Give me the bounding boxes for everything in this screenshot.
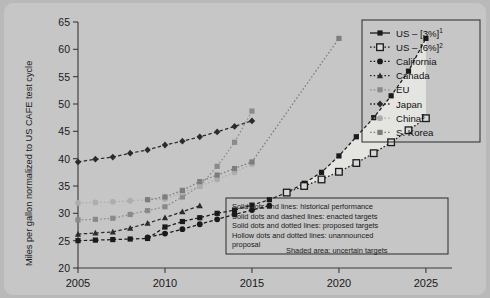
data-point <box>336 168 343 175</box>
chart-container: Miles per gallon normalized to US CAFE t… <box>0 0 490 298</box>
y-axis-label: Miles per gallon normalized to US CAFE t… <box>24 61 34 266</box>
y-tick-label: 25 <box>58 235 70 247</box>
note-line-2: Solid dots and dashed lines: enacted tar… <box>232 212 378 221</box>
legend-marker <box>377 130 382 135</box>
legend-label: EU <box>396 84 409 95</box>
data-point <box>75 217 80 222</box>
data-point <box>145 197 150 202</box>
y-tick-label: 35 <box>58 180 70 192</box>
data-point <box>197 179 202 184</box>
data-point <box>128 212 133 217</box>
data-point <box>249 118 255 125</box>
data-point <box>354 134 359 139</box>
x-tick-label: 2010 <box>153 277 177 289</box>
data-point <box>127 150 133 157</box>
data-point <box>145 234 151 240</box>
data-point <box>370 150 377 157</box>
legend-item-japan[interactable]: Japan <box>370 99 422 110</box>
data-point <box>389 93 394 98</box>
data-point <box>319 170 324 175</box>
data-point <box>110 199 116 205</box>
data-point <box>75 200 81 206</box>
data-point <box>93 238 98 243</box>
data-point <box>318 176 325 183</box>
data-point <box>162 204 167 209</box>
data-point <box>215 211 220 216</box>
data-point <box>179 138 185 145</box>
data-point <box>75 238 80 243</box>
legend-label: California <box>396 56 437 67</box>
y-tick-label: 40 <box>58 153 70 165</box>
data-point <box>145 208 150 213</box>
data-point <box>249 159 254 164</box>
legend-item-canada[interactable]: Canada <box>370 70 430 81</box>
legend-label: China3 <box>396 113 425 124</box>
legend-label-superscript: 3 <box>421 113 425 120</box>
y-tick-label: 45 <box>58 125 70 137</box>
data-point <box>180 188 185 193</box>
data-point <box>110 154 116 161</box>
data-point <box>197 202 203 208</box>
series-japan <box>75 118 255 166</box>
legend-label: Japan <box>396 99 422 110</box>
legend-marker <box>377 30 382 35</box>
legend-label: Canada <box>396 70 430 81</box>
data-point <box>336 153 341 158</box>
data-point <box>93 217 98 222</box>
data-point <box>162 224 167 229</box>
note-line-1: Solid dots and lines: historical perform… <box>232 202 373 211</box>
y-tick-label: 65 <box>58 16 70 28</box>
data-point <box>92 200 98 206</box>
data-point <box>179 208 185 214</box>
data-point <box>162 194 167 199</box>
data-point <box>197 221 203 227</box>
legend-item-us-6[interactable]: US – [6%]2 <box>370 42 443 53</box>
data-point <box>232 166 237 171</box>
y-tick-label: 60 <box>58 43 70 55</box>
legend-item-california[interactable]: California <box>370 56 437 67</box>
data-point <box>249 109 254 114</box>
data-point <box>301 183 308 190</box>
data-point <box>232 140 237 145</box>
data-point <box>180 219 185 224</box>
x-tick-label: 2015 <box>240 277 264 289</box>
y-tick-label: 20 <box>58 262 70 274</box>
x-tick-label: 2005 <box>66 277 90 289</box>
y-tick-label: 30 <box>58 207 70 219</box>
legend-item-us-3[interactable]: US – [3%]1 <box>370 27 443 38</box>
legend-marker <box>377 115 383 121</box>
y-tick-label: 55 <box>58 71 70 83</box>
y-axis-label-text: Miles per gallon normalized to US CAFE t… <box>24 61 34 266</box>
data-point <box>197 215 202 220</box>
data-point <box>197 133 203 140</box>
data-point <box>162 142 168 149</box>
y-axis-ticks: 20253035404550556065 <box>58 16 78 274</box>
data-point <box>283 189 290 196</box>
legend-label: US – [6%]2 <box>396 42 443 53</box>
data-point <box>92 156 98 163</box>
legend-marker <box>377 87 382 92</box>
data-point <box>110 216 115 221</box>
note-line-5: proposal <box>232 240 261 249</box>
note-line-4: Hollow dots and dotted lines: unannounce… <box>232 231 373 240</box>
data-point <box>162 215 168 221</box>
shaded-area-note: Shaded area: uncertain targets <box>286 246 388 255</box>
data-point <box>179 226 185 232</box>
x-axis-ticks: 20052010201520202025 <box>66 268 438 289</box>
data-point <box>162 231 168 237</box>
data-point <box>231 123 237 130</box>
data-point <box>353 160 360 167</box>
legend-label-superscript: 1 <box>439 27 443 34</box>
legend-marker <box>377 101 383 108</box>
data-point <box>215 164 220 169</box>
data-point <box>336 36 341 41</box>
annotation-box: Solid dots and lines: historical perform… <box>226 198 448 255</box>
data-point <box>144 147 150 154</box>
legend-marker <box>377 59 383 65</box>
legend-marker <box>377 44 384 51</box>
x-tick-label: 2025 <box>414 277 438 289</box>
note-line-3: Solid dots and dotted lines: proposed ta… <box>232 221 379 230</box>
data-point <box>127 198 133 204</box>
series-eu <box>75 109 254 223</box>
legend-label: US – [3%]1 <box>396 27 443 38</box>
